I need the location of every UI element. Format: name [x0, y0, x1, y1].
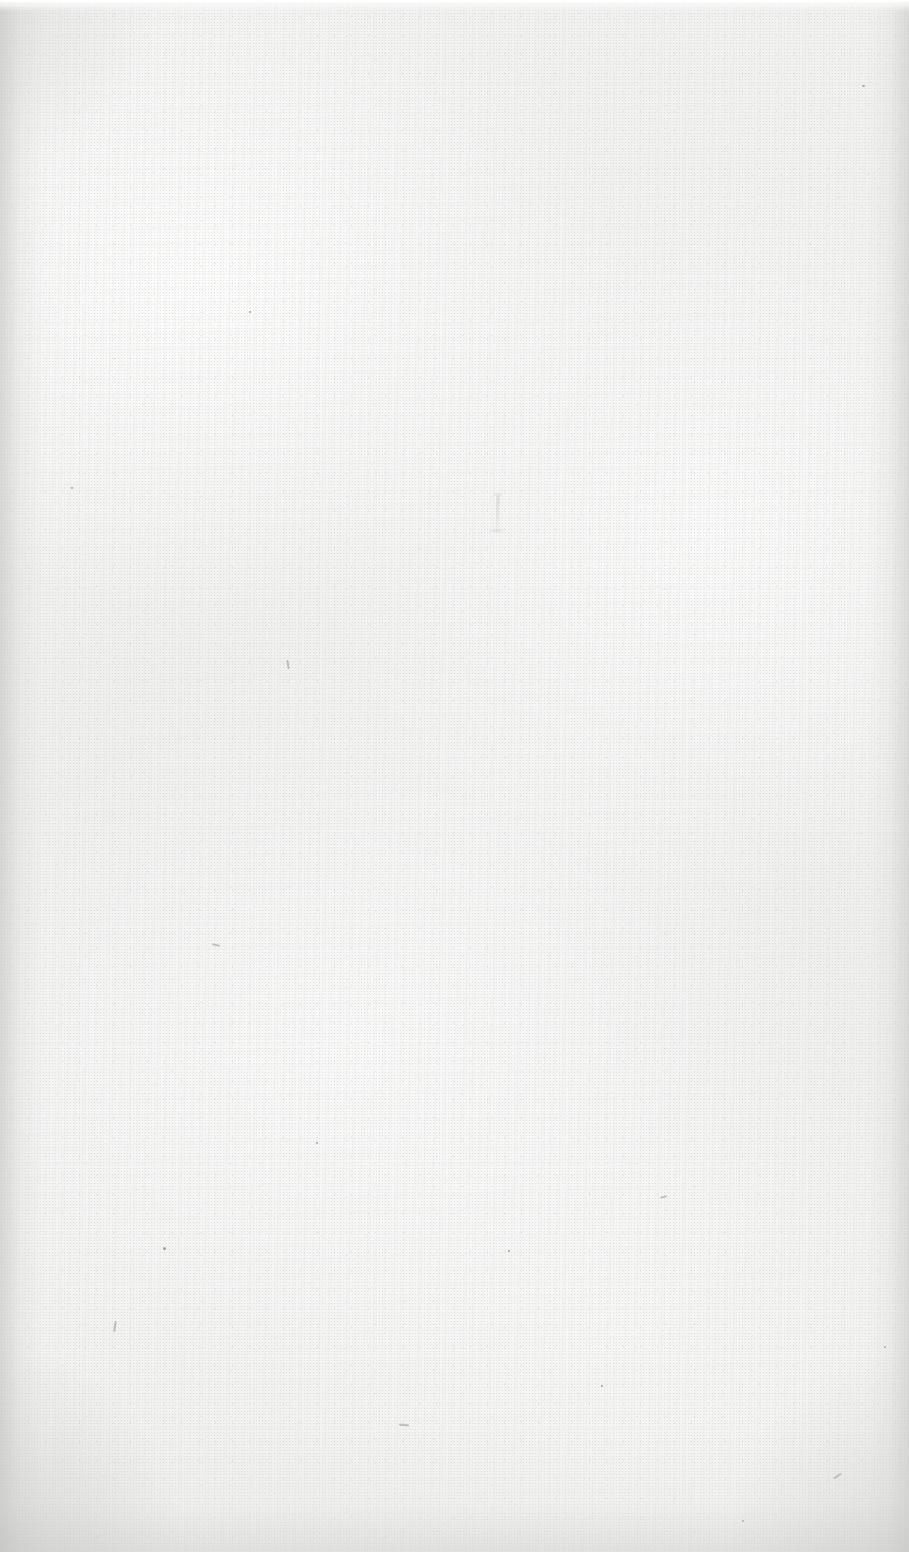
scanned-page: [0, 0, 909, 1552]
page-content-layer: [0, 0, 909, 1552]
